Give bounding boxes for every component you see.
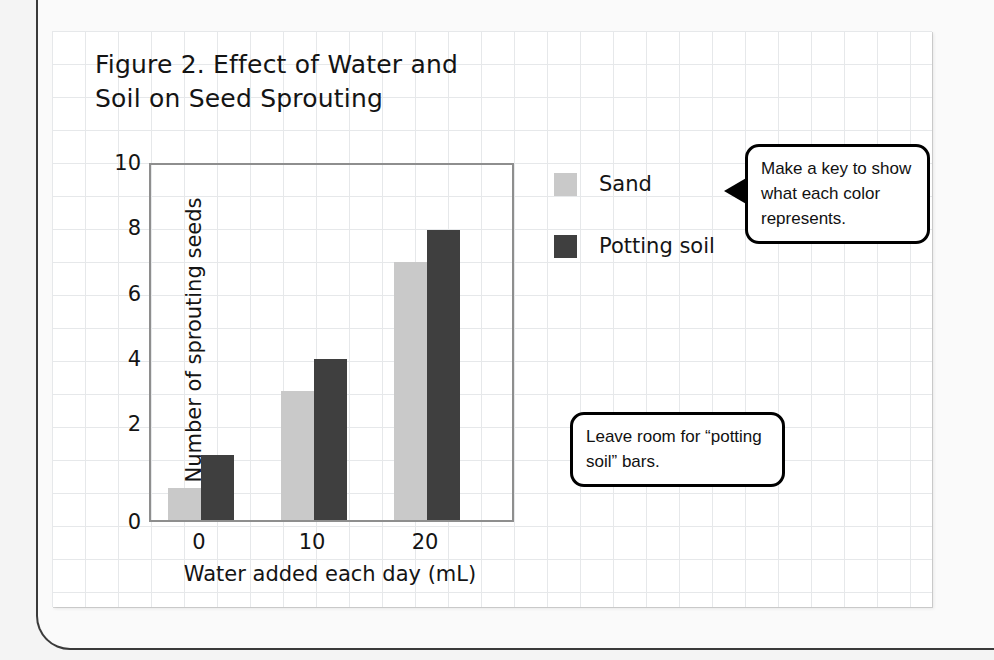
callout-leave-room-text: Leave room for “potting soil” bars. (586, 427, 762, 471)
bar-sand-10 (281, 391, 314, 520)
textbook-page-screenshot: Figure 2. Effect of Water and Soil on Se… (0, 0, 994, 660)
y-tick-0: 0 (101, 510, 141, 534)
legend-label-potting-soil: Potting soil (599, 234, 715, 258)
bar-sand-0 (168, 488, 201, 520)
bar-group-20 (394, 165, 460, 520)
x-tick-20: 20 (392, 530, 458, 554)
legend-swatch-sand-icon (554, 173, 577, 196)
figure-title: Figure 2. Effect of Water and Soil on Se… (95, 48, 565, 116)
y-axis-ticks: 10 8 6 4 2 0 (95, 163, 141, 522)
y-tick-2: 2 (101, 412, 141, 436)
legend-item-potting-soil: Potting soil (554, 234, 715, 258)
legend-item-sand: Sand (554, 172, 715, 196)
bar-potting-soil-10 (314, 359, 347, 520)
callout-make-a-key: Make a key to show what each color repre… (745, 144, 930, 244)
y-tick-8: 8 (101, 216, 141, 240)
bar-potting-soil-0 (201, 455, 234, 520)
bar-potting-soil-20 (427, 230, 460, 520)
callout-make-a-key-text: Make a key to show what each color repre… (761, 159, 911, 228)
callout-tail-inner-icon (730, 181, 748, 201)
plot-area (149, 163, 514, 522)
bar-group-0 (168, 165, 234, 520)
x-axis-ticks: 0 10 20 (149, 530, 514, 558)
legend-label-sand: Sand (599, 172, 652, 196)
bars-container (151, 165, 512, 520)
chart-legend: Sand Potting soil (554, 172, 715, 296)
legend-swatch-potting-soil-icon (554, 235, 577, 258)
y-tick-10: 10 (101, 151, 141, 175)
x-tick-10: 10 (279, 530, 345, 554)
y-tick-4: 4 (101, 347, 141, 371)
figure-title-line-2: Soil on Seed Sprouting (95, 82, 565, 116)
bar-sand-20 (394, 262, 427, 520)
x-axis-label: Water added each day (mL) (130, 562, 530, 586)
callout-leave-room: Leave room for “potting soil” bars. (570, 412, 785, 487)
y-tick-6: 6 (101, 282, 141, 306)
x-tick-0: 0 (166, 530, 232, 554)
bar-group-10 (281, 165, 347, 520)
figure-title-line-1: Figure 2. Effect of Water and (95, 48, 565, 82)
